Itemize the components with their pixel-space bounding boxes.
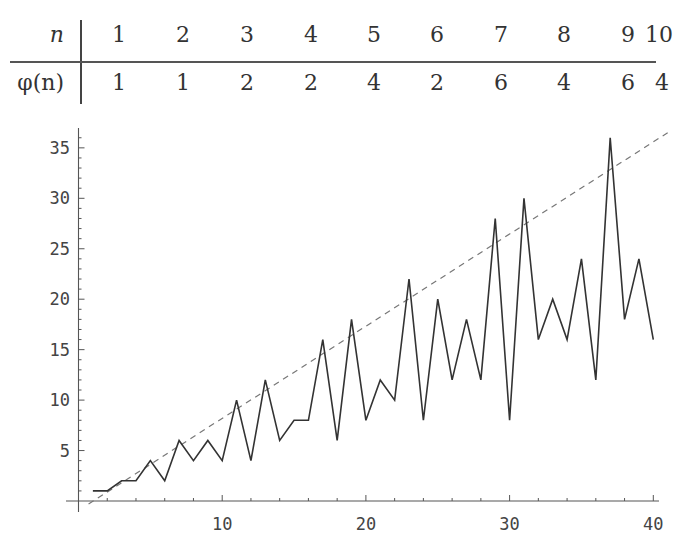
x-tick-label: 20 <box>356 514 376 534</box>
y-tick-label: 15 <box>50 340 70 360</box>
y-tick-label: 10 <box>50 390 70 410</box>
y-tick-label: 25 <box>50 239 70 259</box>
x-tick-label: 40 <box>643 514 663 534</box>
x-tick-label: 10 <box>212 514 232 534</box>
totient-line-chart: 102030405101520253035 <box>0 0 675 536</box>
y-tick-label: 30 <box>50 188 70 208</box>
phi-series-line <box>93 138 653 491</box>
x-tick-label: 30 <box>499 514 519 534</box>
reference-line-y-equals-x <box>89 133 668 504</box>
y-tick-label: 20 <box>50 289 70 309</box>
axis-ticks <box>79 138 654 501</box>
y-tick-label: 5 <box>60 441 70 461</box>
axis-tick-labels: 102030405101520253035 <box>50 138 664 534</box>
y-tick-label: 35 <box>50 138 70 158</box>
